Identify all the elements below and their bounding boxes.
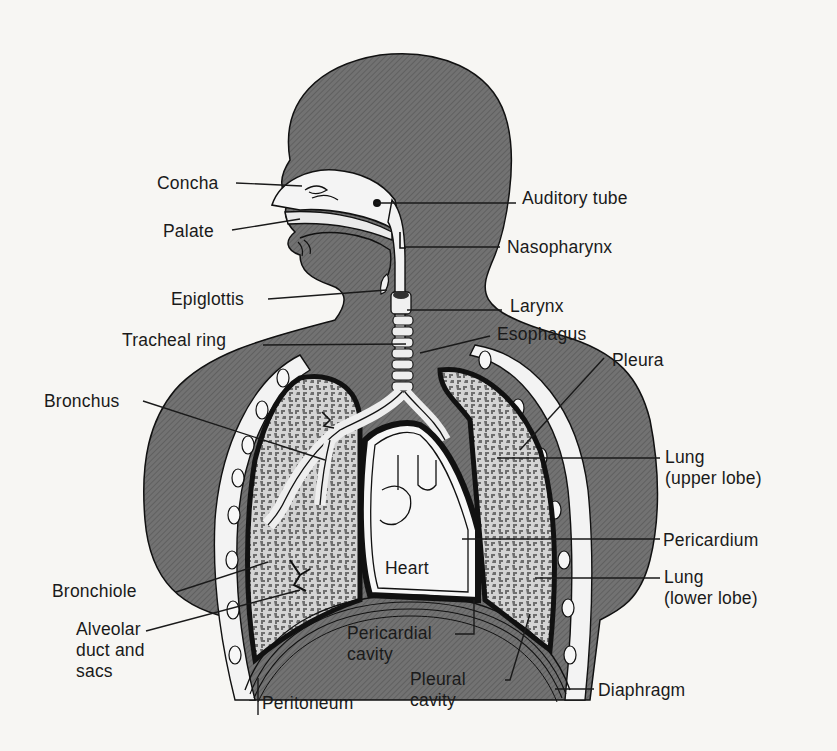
leader-line-tracheal-ring xyxy=(263,344,406,345)
label-pleura: Pleura xyxy=(612,350,664,371)
label-lung-upper-lobe: Lung (upper lobe) xyxy=(665,447,762,489)
label-heart: Heart xyxy=(385,558,429,579)
label-pericardium: Pericardium xyxy=(663,530,759,551)
label-tracheal-ring: Tracheal ring xyxy=(122,330,226,351)
label-peritoneum: Peritoneum xyxy=(262,693,354,714)
label-bronchus: Bronchus xyxy=(44,391,120,412)
label-alveolar-duct-and-sacs: Alveolar duct and sacs xyxy=(76,619,145,682)
label-epiglottis: Epiglottis xyxy=(171,289,244,310)
label-esophagus: Esophagus xyxy=(497,324,586,345)
label-lung-lower-lobe: Lung (lower lobe) xyxy=(664,567,758,609)
label-pericardial-cavity: Pericardial cavity xyxy=(347,623,432,665)
label-auditory-tube: Auditory tube xyxy=(522,188,628,209)
label-larynx: Larynx xyxy=(510,296,564,317)
label-pleural-cavity: Pleural cavity xyxy=(410,669,466,711)
label-diaphragm: Diaphragm xyxy=(598,680,685,701)
label-concha: Concha xyxy=(157,173,219,194)
label-nasopharynx: Nasopharynx xyxy=(507,237,612,258)
respiratory-system-diagram: Concha Palate Auditory tube Nasopharynx … xyxy=(0,0,837,751)
label-palate: Palate xyxy=(163,221,214,242)
label-bronchiole: Bronchiole xyxy=(52,581,137,602)
